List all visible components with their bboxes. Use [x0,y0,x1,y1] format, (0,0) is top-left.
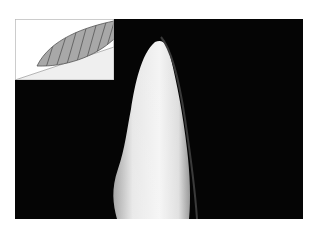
lens-diagram-icon [15,19,114,80]
inset-diagram [15,19,114,80]
